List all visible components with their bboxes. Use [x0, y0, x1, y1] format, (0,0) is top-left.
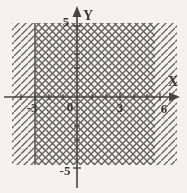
x-tick-label-3: 3: [117, 100, 124, 115]
origin-label: 0: [67, 99, 74, 114]
y-tick-label--5: -5: [60, 163, 71, 178]
coordinate-plane-figure: -3 0 3 6 5 -5 X Y: [0, 0, 187, 193]
x-tick-label-6: 6: [161, 101, 168, 116]
y-axis-label: Y: [83, 8, 93, 23]
x-tick-label--3: -3: [27, 100, 38, 115]
cross-hatched-region: [35, 23, 155, 165]
single-hatched-left-region: [12, 23, 35, 165]
single-hatched-right-region: [155, 23, 177, 165]
coordinate-plane-svg: -3 0 3 6 5 -5 X Y: [0, 0, 187, 193]
y-axis-arrowhead: [73, 6, 82, 17]
y-tick-label-5: 5: [63, 14, 70, 29]
x-axis-label: X: [168, 74, 178, 89]
